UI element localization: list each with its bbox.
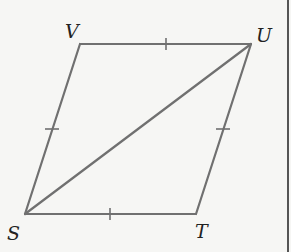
rhombus-diagram: V U S T [0, 0, 291, 252]
vertex-label-v: V [65, 20, 81, 42]
vertex-label-t: T [195, 220, 209, 242]
vertex-label-u: U [256, 24, 273, 46]
vertex-label-s: S [7, 222, 20, 244]
